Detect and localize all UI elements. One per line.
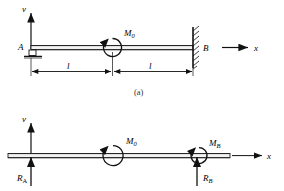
panel-a-point-b-label: B — [203, 43, 209, 53]
panel-a-support-a — [24, 50, 42, 58]
panel-a-support-b-wall — [193, 26, 199, 69]
panel-a-x-axis-label: x — [253, 43, 258, 53]
panel-a-dimension-lines — [31, 52, 193, 76]
figure-canvas: v A B — [0, 0, 284, 191]
panel-a-point-a-label: A — [17, 42, 24, 52]
panel-b-reaction-a-label: RA — [16, 173, 28, 184]
panel-b-v-axis-label: v — [22, 114, 26, 124]
panel-b-moment-mb-label: MB — [208, 138, 221, 149]
panel-b-x-axis-label: x — [266, 151, 271, 161]
beam-figure: v A B — [0, 0, 284, 191]
panel-a-moment-label: M0 — [123, 28, 136, 39]
panel-a-dim-left-label: l — [67, 61, 70, 71]
figure-caption-a: (a) — [134, 87, 144, 97]
panel-a-dim-right-label: l — [149, 61, 152, 71]
panel-b-reaction-b-label: RB — [202, 173, 213, 184]
panel-a-v-axis-label: v — [22, 4, 26, 14]
panel-a-beam — [31, 46, 193, 50]
panel-b-moment-m0-label: M0 — [125, 136, 138, 147]
